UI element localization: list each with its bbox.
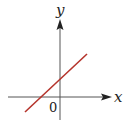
y-axis-label: y [55,1,65,19]
x-axis-label: x [114,88,123,106]
origin-label: 0 [49,100,57,115]
graph-canvas: y x 0 [0,0,125,120]
